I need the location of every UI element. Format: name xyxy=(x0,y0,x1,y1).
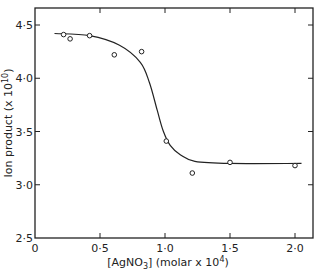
data-point xyxy=(68,37,73,42)
y-tick-label: 3·5 xyxy=(16,126,34,139)
tick-labels: 00·51·01·52·02·53·03·54·04·5 xyxy=(16,19,304,255)
data-point xyxy=(61,32,66,37)
x-tick-label: 1·0 xyxy=(156,242,174,255)
x-tick-label: 2·0 xyxy=(286,242,304,255)
plot-frame xyxy=(35,8,313,238)
data-point xyxy=(164,139,169,144)
y-tick-label: 3·0 xyxy=(16,179,34,192)
data-point xyxy=(87,33,92,38)
data-point xyxy=(293,163,298,168)
data-point xyxy=(112,53,117,58)
data-point xyxy=(228,160,233,165)
y-tick-label: 2·5 xyxy=(16,232,34,245)
chart: 00·51·01·52·02·53·03·54·04·5 [AgNO3] (mo… xyxy=(0,0,315,274)
fitted-curve xyxy=(55,34,302,164)
x-tick-label: 0·5 xyxy=(91,242,109,255)
y-axis-title: Ion product (x 1010) xyxy=(1,68,15,177)
y-axis-title-sup: 10 xyxy=(1,73,10,83)
y-tick-label: 4·0 xyxy=(16,72,34,85)
ticks xyxy=(35,8,313,238)
data-point xyxy=(139,49,144,54)
data-point xyxy=(190,171,195,176)
y-tick-label: 4·5 xyxy=(16,19,34,32)
x-axis-title: [AgNO3] (molar x 104) xyxy=(107,255,229,271)
x-tick-label: 1·5 xyxy=(221,242,239,255)
